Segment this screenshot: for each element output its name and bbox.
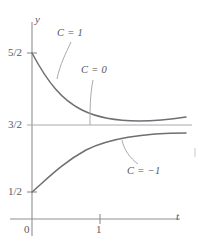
curve-annotation-c1: C = 1: [57, 28, 83, 39]
y-tick-label-5-over-2: 5/2: [8, 47, 22, 58]
direction-field-solution-curves-figure: 5/2 3/2 1/2 0 1 y t C = 1 C = 0 C = −1: [0, 0, 198, 243]
y-axis-label: y: [35, 14, 40, 25]
x-tick-label-one: 1: [96, 224, 102, 235]
leader-line-c1: [57, 42, 71, 79]
curve-annotation-cm1: C = −1: [127, 166, 160, 177]
leader-line-cm1: [122, 140, 138, 164]
solution-curve-cm1: [32, 133, 186, 192]
x-tick-label-zero: 0: [24, 224, 30, 235]
chart-canvas: [0, 0, 198, 243]
solution-curve-c1: [32, 53, 186, 121]
y-tick-label-1-over-2: 1/2: [8, 186, 22, 197]
curve-annotation-c0: C = 0: [81, 65, 107, 76]
t-axis-label: t: [176, 211, 179, 222]
y-tick-label-3-over-2: 3/2: [8, 119, 22, 130]
leader-line-c0: [90, 80, 93, 125]
